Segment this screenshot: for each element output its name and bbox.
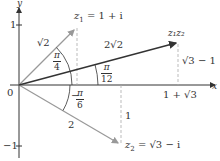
y-tick-neg1-label: −1 <box>3 141 18 151</box>
z1-modulus-label: √2 <box>37 38 50 48</box>
angle-arc-neg-pi-6 <box>63 85 70 111</box>
y-axis-label: y <box>17 0 22 8</box>
x-axis-label: x <box>212 82 217 91</box>
z2-vector <box>19 85 118 143</box>
y-tick-1-label: 1 <box>10 20 16 30</box>
origin-label: 0 <box>7 88 13 98</box>
z1z2-x-label: 1 + √3 <box>163 90 197 100</box>
z1z2-modulus-label: 2√2 <box>104 40 123 50</box>
z1-label: z1 = 1 + i <box>74 11 123 24</box>
angle-arc-pi-12 <box>95 65 98 86</box>
z2-depth-label: 1 <box>125 111 131 121</box>
z1z2-label: z₁z₂ <box>168 29 185 38</box>
z2-modulus-label: 2 <box>68 120 74 130</box>
angle-neg-pi-6-label: π6 <box>76 89 84 110</box>
z2-label: z2 = √3 − i <box>125 140 180 153</box>
z1z2-height-label: √3 − 1 <box>182 56 216 66</box>
angle-pi-12-label: π12 <box>101 63 112 84</box>
angle-pi-4-label: π4 <box>53 51 61 72</box>
